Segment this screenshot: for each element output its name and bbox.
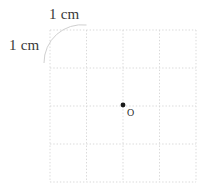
origin-point-label: O <box>127 107 134 118</box>
centimetre-grid-figure: 1 cm 1 cm O <box>0 0 210 196</box>
origin-point-dot <box>121 103 126 108</box>
top-measurement-label: 1 cm <box>49 6 79 23</box>
figure-canvas <box>0 0 210 196</box>
left-measurement-label: 1 cm <box>9 37 39 54</box>
